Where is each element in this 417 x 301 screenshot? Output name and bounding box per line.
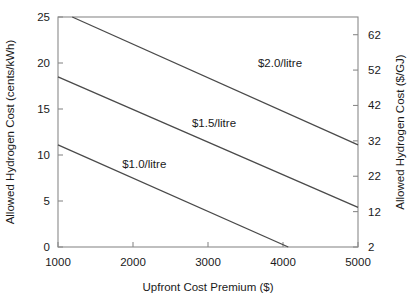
y-axis-left-ticks <box>58 17 63 247</box>
x-axis-title: Upfront Cost Premium ($) <box>142 281 273 293</box>
y2-tick-label: 62 <box>368 29 381 41</box>
y-axis-left-title: Allowed Hydrogen Cost (cents/kWh) <box>4 39 16 224</box>
series-label: $2.0/litre <box>258 57 302 69</box>
y2-tick-label: 22 <box>368 170 381 182</box>
x-tick-label: 3000 <box>195 256 221 268</box>
x-tick-label: 1000 <box>45 256 71 268</box>
x-tick-label: 2000 <box>120 256 146 268</box>
series-line <box>58 145 288 247</box>
series-annotations: $1.0/litre$1.5/litre$2.0/litre <box>122 57 302 170</box>
data-series-lines <box>58 17 358 247</box>
series-label: $1.5/litre <box>192 117 236 129</box>
y2-tick-label: 52 <box>368 64 381 76</box>
x-axis-ticks <box>58 242 358 247</box>
y-tick-label: 20 <box>37 57 50 69</box>
y-tick-label: 25 <box>37 11 50 23</box>
y-tick-label: 5 <box>44 195 50 207</box>
y-tick-label: 10 <box>37 149 50 161</box>
chart-figure: 10002000300040005000 0510152025 21222324… <box>0 0 417 301</box>
x-tick-label: 4000 <box>270 256 296 268</box>
y2-tick-label: 32 <box>368 135 381 147</box>
y-axis-right-title: Allowed Hydrogen Cost ($/GJ) <box>394 54 406 209</box>
series-line <box>58 77 358 208</box>
y2-tick-label: 2 <box>368 241 374 253</box>
hydrogen-cost-line-chart: 10002000300040005000 0510152025 21222324… <box>0 0 417 301</box>
y-axis-right-ticks <box>353 35 358 247</box>
y-tick-label: 15 <box>37 103 50 115</box>
x-axis-tick-labels: 10002000300040005000 <box>45 256 371 268</box>
y-tick-label: 0 <box>44 241 50 253</box>
series-label: $1.0/litre <box>122 158 166 170</box>
y2-tick-label: 12 <box>368 206 381 218</box>
y-axis-left-tick-labels: 0510152025 <box>37 11 50 253</box>
y-axis-right-tick-labels: 2122232425262 <box>368 29 381 253</box>
y2-tick-label: 42 <box>368 99 381 111</box>
x-tick-label: 5000 <box>345 256 371 268</box>
plot-frame <box>58 17 358 247</box>
